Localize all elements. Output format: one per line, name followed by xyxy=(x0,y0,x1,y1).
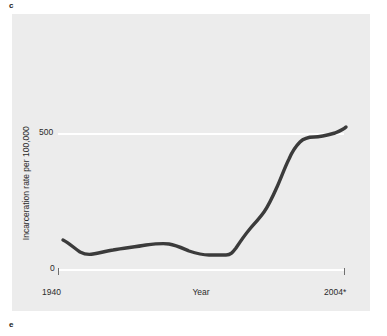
figure-panel-letter-c: c xyxy=(9,2,13,10)
y-axis-title: Incarceration rate per 100,000 xyxy=(22,108,31,258)
y-axis-tick-label-500: 500 xyxy=(39,128,53,137)
y-axis-tick-label-0: 0 xyxy=(50,264,55,273)
incarceration-rate-line xyxy=(63,127,346,255)
x-axis-title: Year xyxy=(58,288,344,297)
line-series-plot xyxy=(12,14,370,311)
figure-panel-letter-e: e xyxy=(9,321,13,329)
chart-panel: 500 0 1940 2004* Year Incarceration rate… xyxy=(12,14,370,311)
